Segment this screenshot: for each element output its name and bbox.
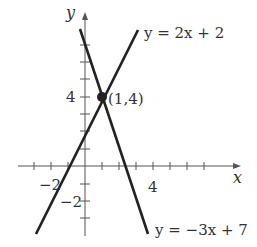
x-axis — [18, 162, 241, 170]
tick-label-y-neg2: −2 — [60, 193, 82, 211]
line-y-neg3x-plus-7 — [80, 29, 148, 234]
x-axis-label: x — [233, 168, 242, 187]
tick-label-x-4: 4 — [148, 178, 158, 196]
graph: y x y = 2x + 2 y = −3x + 7 (1,4) −2 4 4 … — [0, 0, 257, 247]
line1-label: y = 2x + 2 — [143, 24, 224, 42]
tick-label-y-4: 4 — [66, 88, 76, 106]
y-axis-arrow-icon — [82, 12, 88, 20]
y-axis-label: y — [65, 3, 76, 22]
intersection-label: (1,4) — [108, 90, 144, 108]
line2-label: y = −3x + 7 — [154, 221, 248, 239]
tick-label-x-neg2: −2 — [39, 176, 61, 194]
intersection-point — [97, 92, 107, 102]
line-y-2x-plus-2 — [36, 30, 138, 234]
